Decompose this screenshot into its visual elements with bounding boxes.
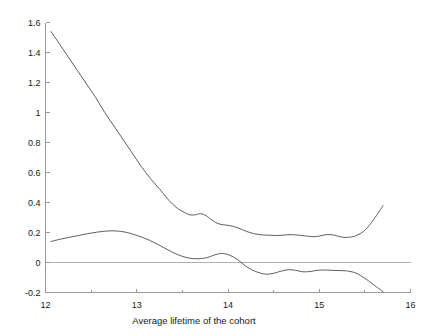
x-axis-tick-label: 12 [26, 300, 66, 310]
y-axis-tick-label: 1 [35, 108, 40, 118]
x-axis-label: Average lifetime of the cohort [132, 315, 255, 326]
x-axis-tick-label: 15 [299, 300, 339, 310]
y-axis-tick-label: 0 [35, 258, 40, 268]
y-axis-tick-label: 0.6 [28, 168, 41, 178]
chart-figure: -0.200.20.40.60.811.21.41.6 1213141516 A… [0, 0, 432, 336]
lower-curve [51, 231, 383, 292]
data-series [51, 32, 383, 292]
plot-canvas [0, 0, 432, 336]
y-axis-tick-label: 0.4 [28, 198, 41, 208]
axis-ticks [46, 23, 411, 293]
y-axis-tick-label: -0.2 [25, 288, 41, 298]
upper-curve [51, 32, 383, 238]
x-axis-tick-label: 14 [208, 300, 248, 310]
y-axis-tick-label: 1.4 [28, 48, 41, 58]
axis-lines [46, 23, 411, 293]
y-axis-tick-label: 1.2 [28, 78, 41, 88]
y-axis-tick-label: 0.2 [28, 228, 41, 238]
y-axis-tick-label: 0.8 [28, 138, 41, 148]
x-axis-tick-label: 13 [117, 300, 157, 310]
x-axis-tick-label: 16 [391, 300, 431, 310]
y-axis-tick-label: 1.6 [28, 18, 41, 28]
